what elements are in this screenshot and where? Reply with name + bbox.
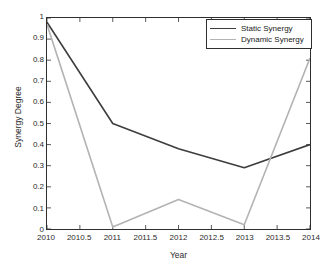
x-tick-label: 2014 <box>289 233 327 242</box>
y-tick-label: 0.9 <box>4 34 44 42</box>
legend-label-static-synergy: Static Synergy <box>241 24 293 33</box>
chart-legend: Static Synergy Dynamic Synergy <box>206 19 312 49</box>
y-tick-label: 0.1 <box>4 205 44 213</box>
y-tick-label: 0.4 <box>4 141 44 149</box>
series-line <box>47 24 310 227</box>
y-tick-label: 0.3 <box>4 162 44 170</box>
y-tick-label: 1 <box>4 13 44 21</box>
y-tick-label: 0.6 <box>4 98 44 106</box>
y-tick-label: 0.2 <box>4 183 44 191</box>
plot-lines <box>47 18 310 229</box>
legend-swatch-static-synergy <box>210 28 236 29</box>
y-tick-label: 0.8 <box>4 56 44 64</box>
legend-item-dynamic-synergy: Dynamic Synergy <box>210 34 307 45</box>
y-axis-title: Synergy Degree <box>13 62 23 172</box>
x-axis-title: Year <box>46 250 311 260</box>
chart-figure: 00.10.20.30.40.50.60.70.80.91 20102010.5… <box>0 0 327 269</box>
y-tick-label: 0.5 <box>4 120 44 128</box>
legend-item-static-synergy: Static Synergy <box>210 23 307 34</box>
legend-swatch-dynamic-synergy <box>210 39 236 40</box>
legend-label-dynamic-synergy: Dynamic Synergy <box>241 35 304 44</box>
y-tick-label: 0.7 <box>4 77 44 85</box>
